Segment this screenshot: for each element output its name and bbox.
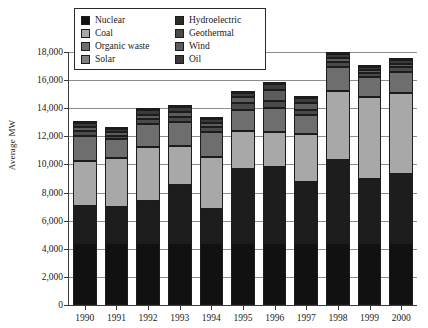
bar-segment-wind[interactable] xyxy=(358,70,382,73)
bar-segment-solar[interactable] xyxy=(105,127,129,129)
bar-segment-nuclear[interactable] xyxy=(358,243,382,305)
bar-segment-coal[interactable] xyxy=(200,157,224,209)
bar-segment-coal[interactable] xyxy=(73,161,97,206)
bar-segment-wind[interactable] xyxy=(136,115,160,119)
bar-segment-solar[interactable] xyxy=(73,121,97,123)
bar-segment-wind[interactable] xyxy=(231,97,255,103)
bar-segment-coal[interactable] xyxy=(105,158,129,207)
bar-segment-oil[interactable] xyxy=(389,60,413,64)
legend-item-wind[interactable]: Wind xyxy=(175,40,267,53)
bar-segment-solar[interactable] xyxy=(200,117,224,119)
bar-segment-solar[interactable] xyxy=(389,58,413,60)
bar-1991[interactable] xyxy=(105,52,129,305)
bar-segment-oil[interactable] xyxy=(73,123,97,127)
bar-segment-coal[interactable] xyxy=(263,132,287,167)
bar-segment-oil[interactable] xyxy=(263,84,287,90)
bar-2000[interactable] xyxy=(389,52,413,305)
bar-segment-nuclear[interactable] xyxy=(389,243,413,305)
bar-segment-wind[interactable] xyxy=(105,132,129,136)
bar-segment-geothermal[interactable] xyxy=(200,127,224,132)
bar-segment-solar[interactable] xyxy=(231,91,255,93)
bar-segment-organic-waste[interactable] xyxy=(358,77,382,97)
bar-segment-solar[interactable] xyxy=(263,82,287,84)
bar-1996[interactable] xyxy=(263,52,287,305)
bar-segment-hydroelectric[interactable] xyxy=(231,169,255,243)
bar-segment-nuclear[interactable] xyxy=(200,243,224,305)
bar-segment-geothermal[interactable] xyxy=(168,117,192,123)
bar-segment-wind[interactable] xyxy=(263,90,287,101)
bar-segment-solar[interactable] xyxy=(326,52,350,54)
bar-segment-organic-waste[interactable] xyxy=(136,124,160,146)
bar-segment-organic-waste[interactable] xyxy=(200,132,224,157)
bar-segment-wind[interactable] xyxy=(389,64,413,68)
bar-segment-hydroelectric[interactable] xyxy=(326,160,350,243)
legend-item-hydroelectric[interactable]: Hydroelectric xyxy=(175,14,267,27)
bar-segment-solar[interactable] xyxy=(358,65,382,67)
bar-1990[interactable] xyxy=(73,52,97,305)
bar-segment-organic-waste[interactable] xyxy=(326,67,350,90)
bar-segment-coal[interactable] xyxy=(168,146,192,185)
legend-item-nuclear[interactable]: Nuclear xyxy=(81,14,175,27)
bar-segment-hydroelectric[interactable] xyxy=(358,179,382,244)
bar-segment-solar[interactable] xyxy=(136,108,160,110)
bar-segment-coal[interactable] xyxy=(136,147,160,201)
bar-segment-oil[interactable] xyxy=(231,93,255,97)
bar-segment-oil[interactable] xyxy=(105,129,129,133)
bar-segment-coal[interactable] xyxy=(294,134,318,182)
bar-segment-geothermal[interactable] xyxy=(326,62,350,68)
bar-segment-hydroelectric[interactable] xyxy=(294,182,318,243)
bar-segment-oil[interactable] xyxy=(294,98,318,103)
bar-1992[interactable] xyxy=(136,52,160,305)
bar-1993[interactable] xyxy=(168,52,192,305)
bar-segment-nuclear[interactable] xyxy=(105,243,129,305)
bar-segment-hydroelectric[interactable] xyxy=(389,174,413,243)
bar-segment-wind[interactable] xyxy=(294,103,318,109)
bar-segment-organic-waste[interactable] xyxy=(168,122,192,146)
bar-segment-oil[interactable] xyxy=(200,119,224,123)
bar-segment-wind[interactable] xyxy=(73,127,97,131)
bar-segment-organic-waste[interactable] xyxy=(231,110,255,131)
legend-item-organic-waste[interactable]: Organic waste xyxy=(81,40,175,53)
bar-segment-nuclear[interactable] xyxy=(136,243,160,305)
bar-segment-nuclear[interactable] xyxy=(73,243,97,305)
bar-segment-geothermal[interactable] xyxy=(73,131,97,136)
bar-segment-hydroelectric[interactable] xyxy=(168,185,192,243)
bar-segment-wind[interactable] xyxy=(168,112,192,117)
bar-segment-hydroelectric[interactable] xyxy=(105,207,129,243)
bar-segment-geothermal[interactable] xyxy=(389,67,413,72)
bar-segment-organic-waste[interactable] xyxy=(73,136,97,161)
bar-segment-oil[interactable] xyxy=(136,110,160,114)
bar-segment-organic-waste[interactable] xyxy=(105,139,129,158)
bar-segment-coal[interactable] xyxy=(231,131,255,169)
bar-segment-nuclear[interactable] xyxy=(294,243,318,305)
bar-1995[interactable] xyxy=(231,52,255,305)
bar-segment-hydroelectric[interactable] xyxy=(200,209,224,243)
bar-segment-organic-waste[interactable] xyxy=(294,115,318,134)
bar-segment-geothermal[interactable] xyxy=(358,73,382,77)
bar-segment-geothermal[interactable] xyxy=(231,103,255,109)
bar-segment-wind[interactable] xyxy=(200,123,224,127)
bar-1997[interactable] xyxy=(294,52,318,305)
bar-segment-hydroelectric[interactable] xyxy=(73,206,97,243)
bar-segment-hydroelectric[interactable] xyxy=(136,201,160,243)
bar-segment-nuclear[interactable] xyxy=(231,243,255,305)
bar-segment-organic-waste[interactable] xyxy=(263,108,287,132)
bar-segment-organic-waste[interactable] xyxy=(389,72,413,93)
bar-segment-coal[interactable] xyxy=(326,91,350,161)
bar-segment-nuclear[interactable] xyxy=(326,243,350,305)
bar-segment-geothermal[interactable] xyxy=(136,119,160,125)
bar-segment-oil[interactable] xyxy=(168,107,192,112)
bar-segment-nuclear[interactable] xyxy=(168,243,192,305)
bar-segment-coal[interactable] xyxy=(358,97,382,179)
bar-segment-geothermal[interactable] xyxy=(263,101,287,109)
bar-segment-geothermal[interactable] xyxy=(105,136,129,140)
legend-item-oil[interactable]: Oil xyxy=(175,53,267,66)
bar-segment-solar[interactable] xyxy=(168,105,192,107)
bar-1999[interactable] xyxy=(358,52,382,305)
bar-segment-wind[interactable] xyxy=(326,58,350,62)
bar-1998[interactable] xyxy=(326,52,350,305)
legend-item-coal[interactable]: Coal xyxy=(81,27,175,40)
bar-segment-hydroelectric[interactable] xyxy=(263,167,287,243)
legend-item-solar[interactable]: Solar xyxy=(81,53,175,66)
legend-item-geothermal[interactable]: Geothermal xyxy=(175,27,267,40)
